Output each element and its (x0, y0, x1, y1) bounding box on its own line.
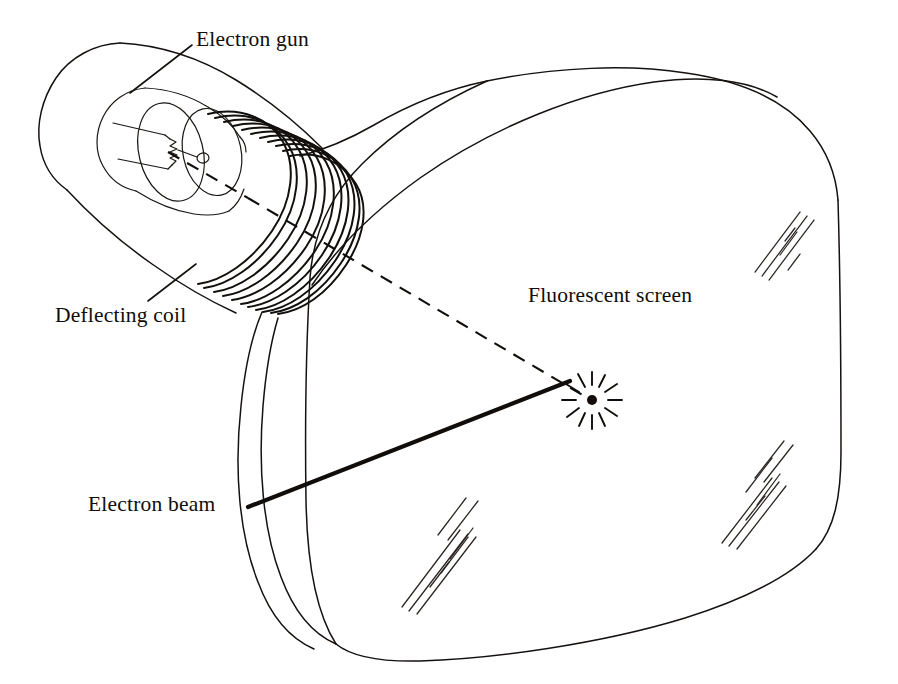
deflected-electron-beam (248, 381, 570, 507)
anode-disc-with-aperture (174, 103, 249, 201)
fluorescent-screen-face-outline (306, 68, 841, 661)
fluorescent-screen-far-contour (312, 79, 777, 285)
label-electron-gun: Electron gun (196, 29, 309, 51)
screen-glare-bottom-right (722, 441, 793, 549)
label-leader-lines (130, 45, 196, 301)
tube-neck-outline (39, 43, 322, 313)
label-deflecting-coil: Deflecting coil (55, 305, 186, 327)
crt-diagram-figure: Electron gun Deflecting coil Electron be… (0, 0, 898, 684)
screen-glare-bottom-left (402, 498, 478, 614)
screen-glare-top-right (755, 212, 814, 280)
label-electron-beam: Electron beam (88, 494, 215, 516)
cathode-filament-zigzag (113, 123, 177, 169)
flare-funnel-outline (238, 81, 487, 649)
undeflected-axis-dashed (168, 152, 586, 397)
label-fluorescent-screen: Fluorescent screen (528, 285, 692, 307)
crt-diagram-drawing (0, 0, 898, 684)
